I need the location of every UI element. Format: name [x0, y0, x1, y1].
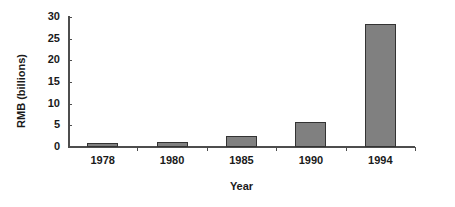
y-axis-tick-mark	[68, 82, 72, 83]
bar-chart-figure: RMB (billions) 051015202530 197819801985…	[0, 0, 455, 207]
y-axis-tick-mark	[68, 17, 72, 18]
bar	[87, 143, 118, 147]
x-axis-tick-mark	[207, 147, 208, 151]
y-axis-tick-label: 15	[0, 75, 60, 87]
y-axis-tick-label: 20	[0, 53, 60, 65]
x-axis-tick-mark	[276, 147, 277, 151]
x-axis-tick-mark	[415, 147, 416, 151]
x-axis-tick-label: 1990	[281, 154, 341, 166]
x-axis-tick-label: 1985	[212, 154, 272, 166]
x-axis-tick-label: 1994	[350, 154, 410, 166]
x-axis-tick-mark	[137, 147, 138, 151]
y-axis-tick-label: 25	[0, 32, 60, 44]
bar	[365, 24, 396, 148]
x-axis-tick-label: 1980	[142, 154, 202, 166]
y-axis-tick-label: 5	[0, 118, 60, 130]
x-axis-tick-label: 1978	[73, 154, 133, 166]
bar	[226, 136, 257, 147]
bar	[157, 142, 188, 147]
y-axis-tick-label: 0	[0, 140, 60, 152]
y-axis-tick-label: 30	[0, 10, 60, 22]
y-axis-tick-mark	[68, 104, 72, 105]
y-axis-tick-mark	[68, 60, 72, 61]
y-axis-tick-mark	[68, 147, 72, 148]
x-axis-tick-mark	[346, 147, 347, 151]
y-axis-tick-mark	[68, 125, 72, 126]
y-axis-tick-label: 10	[0, 97, 60, 109]
plot-area: 051015202530	[68, 17, 415, 147]
bar	[295, 122, 326, 147]
x-axis-title: Year	[68, 180, 415, 192]
y-axis-tick-mark	[68, 39, 72, 40]
